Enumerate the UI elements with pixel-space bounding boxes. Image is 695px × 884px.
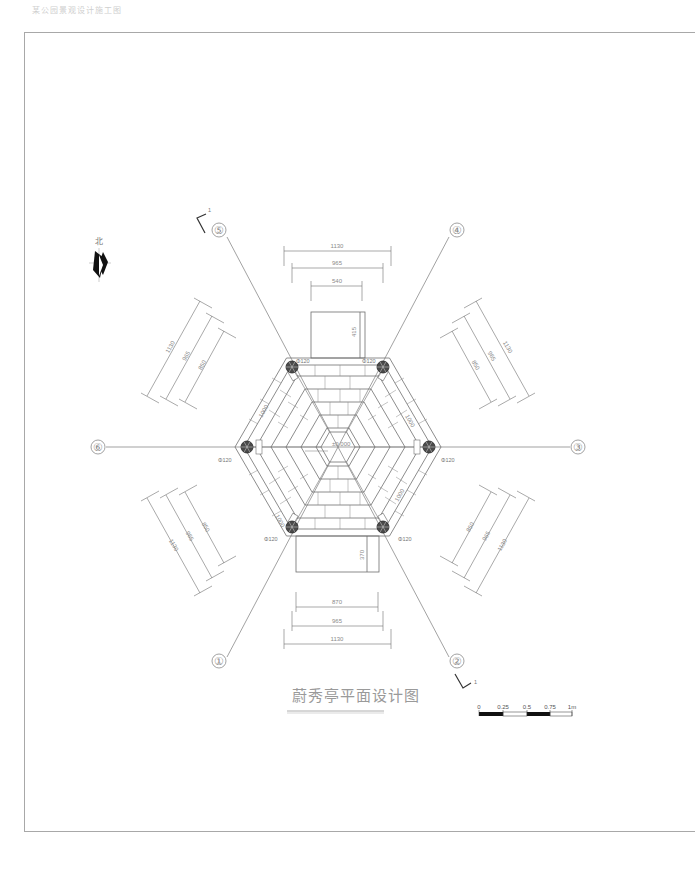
axis-bubble-3: ③: [571, 440, 585, 454]
drawing-title-block: 蔚秀亭平面设计图: [287, 687, 420, 713]
dim-lr-3: 1130: [496, 537, 508, 552]
svg-text:④: ④: [452, 224, 462, 237]
scale-label-05: 0.5: [523, 704, 532, 710]
section-mark-top: 1: [197, 207, 211, 233]
lower-left-dimensions: [141, 485, 236, 596]
scale-label-0: 0: [477, 704, 481, 710]
svg-text:①: ①: [214, 655, 224, 668]
scale-label-025: 0.25: [497, 704, 509, 710]
svg-text:1: 1: [474, 679, 477, 685]
scale-label-075: 0.75: [544, 704, 556, 710]
dim-ll-2: 965: [185, 530, 196, 542]
column-label-5: Φ120: [296, 358, 310, 364]
column-label-6: Φ120: [218, 457, 232, 463]
dim-top-1: 1130: [331, 243, 345, 249]
top-dimensions: [284, 246, 391, 301]
dim-ll-3: 1130: [168, 538, 180, 553]
axis-bubble-2: ②: [450, 654, 464, 668]
column-label-3: Φ120: [441, 457, 455, 463]
svg-text:⑤: ⑤: [214, 224, 224, 237]
dim-bottom-step-depth: 370: [359, 549, 365, 560]
section-mark-bottom: 1: [455, 674, 477, 688]
dim-ul-3: 850: [197, 359, 208, 371]
dim-top-3: 540: [332, 278, 343, 284]
dim-bottom-2: 965: [332, 618, 343, 624]
dim-ur-3: 850: [471, 359, 482, 371]
column-label-2: Φ120: [398, 536, 412, 542]
axis-bubble-1: ①: [212, 654, 226, 668]
scale-label-1m: 1m: [568, 704, 576, 710]
center-elevation: ±0.000: [332, 441, 351, 447]
drawing-title: 蔚秀亭平面设计图: [292, 687, 420, 705]
floor-plan-drawing: 415 370 Φ120 Φ120 Φ120 Φ120 Φ120 Φ120 10…: [0, 0, 695, 884]
dim-inner-edge-ur: 1000: [404, 414, 416, 429]
scale-bar: 0 0.25 0.5 0.75 1m: [477, 704, 576, 716]
lower-right-dimensions: [440, 485, 535, 596]
dim-ur-1: 1130: [502, 340, 514, 355]
dim-inner-edge-ll: 1000: [274, 514, 286, 529]
svg-text:⑥: ⑥: [93, 441, 103, 454]
axis-bubble-4: ④: [450, 223, 464, 237]
dim-bottom-3: 1130: [331, 636, 345, 642]
north-label: 北: [95, 237, 103, 246]
axis-bubble-6: ⑥: [91, 440, 105, 454]
svg-text:②: ②: [452, 655, 462, 668]
dim-top-step-depth: 415: [351, 326, 357, 337]
dim-bottom-1: 870: [332, 599, 343, 605]
column-label-4: Φ120: [362, 358, 376, 364]
dim-ll-1: 850: [201, 521, 212, 533]
svg-text:1: 1: [208, 207, 211, 213]
dim-top-2: 965: [332, 260, 343, 266]
column-label-1: Φ120: [264, 536, 278, 542]
axis-lines: [106, 237, 570, 657]
north-arrow: 北: [89, 237, 111, 282]
dim-ur-2: 965: [487, 350, 498, 362]
axis-bubble-5: ⑤: [212, 223, 226, 237]
svg-text:③: ③: [573, 441, 583, 454]
